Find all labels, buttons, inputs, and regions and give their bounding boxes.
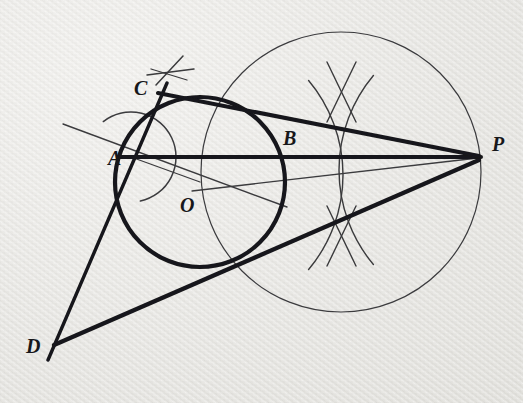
tangent-line-C-to-P — [158, 93, 479, 156]
thin-line-O-to-P — [192, 158, 478, 191]
compass-cross-marks-group — [147, 56, 194, 85]
point-label-A: A — [108, 148, 121, 168]
point-label-D: D — [26, 336, 40, 356]
point-label-O: O — [180, 195, 194, 215]
thin-line-O-to-A — [131, 157, 200, 182]
circle-on-OP-diameter — [201, 32, 481, 312]
point-label-C: C — [134, 78, 147, 98]
point-label-P: P — [492, 134, 504, 154]
tangent-line-D-to-P — [54, 160, 479, 345]
point-label-B: B — [283, 128, 296, 148]
bisector-arc-1 — [339, 76, 373, 265]
auxiliary-circle-group — [201, 32, 481, 312]
perpendicular-bisector-construction — [309, 62, 374, 269]
geometry-drawing — [0, 0, 523, 403]
diagram-canvas: CABOPD — [0, 0, 523, 403]
